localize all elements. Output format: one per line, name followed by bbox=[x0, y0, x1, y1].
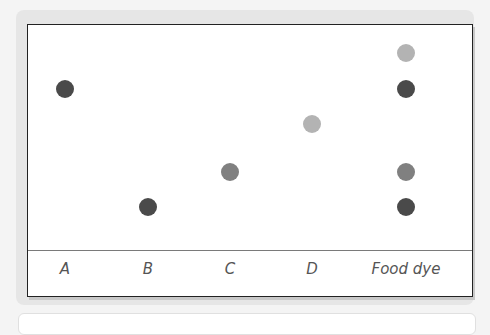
spot-b-dark bbox=[139, 198, 157, 216]
spot-food-dye-light bbox=[397, 44, 415, 62]
lane-label-b: B bbox=[143, 260, 153, 278]
chromatogram-box: ABCDFood dye bbox=[27, 24, 473, 297]
next-panel bbox=[18, 313, 476, 335]
spot-d-light bbox=[303, 115, 321, 133]
spot-c-medium bbox=[221, 163, 239, 181]
spot-a-dark bbox=[56, 80, 74, 98]
baseline-line bbox=[28, 250, 472, 251]
spot-food-dye-medium bbox=[397, 163, 415, 181]
spot-food-dye-dark bbox=[397, 80, 415, 98]
lane-label-a: A bbox=[60, 260, 70, 278]
lane-label-c: C bbox=[225, 260, 235, 278]
lane-label-food-dye: Food dye bbox=[372, 260, 441, 278]
lane-label-d: D bbox=[306, 260, 318, 278]
spot-food-dye-dark bbox=[397, 198, 415, 216]
